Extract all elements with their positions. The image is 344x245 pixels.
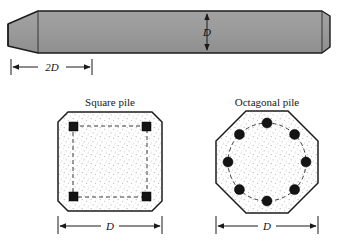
depth-dimension-label: D: [202, 26, 211, 38]
rebar: [142, 122, 151, 131]
octagonal-pile-caption: Octagonal pile: [235, 96, 300, 108]
elevation-taper-dimension: 2D: [11, 59, 92, 75]
rebar: [69, 192, 78, 201]
rebar: [234, 129, 244, 139]
octagonal-dimension-label: D: [262, 220, 271, 232]
taper-dimension-label: 2D: [45, 61, 59, 73]
rebar: [223, 157, 233, 167]
square-pile-section: Square pile D: [58, 96, 162, 234]
octagonal-pile-width-dimension: D: [216, 216, 318, 234]
rebar: [262, 196, 272, 206]
square-pile-width-dimension: D: [58, 216, 162, 234]
rebar: [234, 185, 244, 195]
pile-figure: D 2D Square pile: [0, 0, 344, 245]
rebar: [290, 129, 300, 139]
rebar: [262, 118, 272, 128]
octagonal-pile-section: Octagonal pile D: [216, 96, 318, 234]
rebar: [142, 192, 151, 201]
pile-elevation-view: D 2D: [8, 11, 330, 75]
pile-diagram-canvas: D 2D Square pile: [0, 0, 344, 245]
rebar: [301, 157, 311, 167]
pile-body-shape: [8, 11, 330, 53]
rebar: [290, 185, 300, 195]
square-pile-caption: Square pile: [85, 96, 135, 108]
rebar: [69, 122, 78, 131]
square-dimension-label: D: [105, 220, 114, 232]
